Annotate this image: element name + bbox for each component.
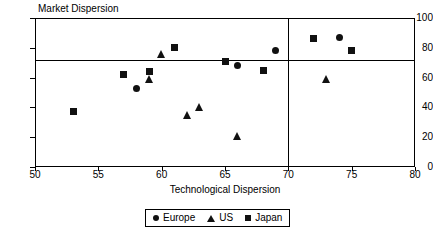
- x-tick-mark: [35, 167, 36, 171]
- data-point-europe: [336, 34, 343, 41]
- circle-marker-icon: [153, 215, 159, 221]
- legend-item-japan: Japan: [245, 212, 282, 224]
- legend-item-us: US: [207, 212, 233, 224]
- x-tick-mark: [352, 167, 353, 171]
- data-point-japan: [120, 71, 127, 78]
- data-point-japan: [310, 35, 317, 42]
- x-tick-mark: [98, 167, 99, 171]
- x-tick-label: 50: [20, 170, 50, 180]
- vertical-reference-line: [288, 18, 289, 167]
- data-point-us: [157, 50, 165, 58]
- data-point-japan: [171, 44, 178, 51]
- data-point-us: [322, 75, 330, 83]
- data-point-japan: [348, 47, 355, 54]
- chart-legend: EuropeUSJapan: [145, 209, 290, 227]
- data-point-japan: [260, 67, 267, 74]
- x-tick-label: 70: [273, 170, 303, 180]
- y-tick-mark: [30, 137, 35, 138]
- y-tick-mark: [30, 78, 35, 79]
- y-tick-mark: [30, 48, 35, 49]
- square-marker-icon: [245, 215, 251, 221]
- y-tick-label: 100: [407, 13, 433, 23]
- data-point-us: [195, 103, 203, 111]
- legend-item-label: US: [219, 212, 233, 224]
- data-point-us: [233, 132, 241, 140]
- y-tick-mark: [30, 18, 35, 19]
- y-tick-label: 60: [407, 73, 433, 83]
- y-tick-mark: [30, 107, 35, 108]
- legend-item-label: Japan: [255, 212, 282, 224]
- data-point-us: [183, 111, 191, 119]
- data-point-europe: [133, 85, 140, 92]
- data-point-japan: [70, 108, 77, 115]
- legend-item-europe: Europe: [153, 212, 195, 224]
- x-tick-label: 55: [83, 170, 113, 180]
- legend-item-label: Europe: [163, 212, 195, 224]
- x-tick-label: 75: [337, 170, 367, 180]
- chart-title: Market Dispersion: [38, 3, 119, 15]
- x-tick-mark: [225, 167, 226, 171]
- y-tick-label: 20: [407, 132, 433, 142]
- y-tick-label: 80: [407, 43, 433, 53]
- x-tick-mark: [162, 167, 163, 171]
- data-point-japan: [146, 68, 153, 75]
- x-tick-mark: [415, 167, 416, 171]
- y-tick-label: 40: [407, 102, 433, 112]
- scatter-chart-figure: Market Dispersion 020406080100 505560657…: [0, 0, 433, 238]
- x-tick-mark: [288, 167, 289, 171]
- x-tick-label: 60: [147, 170, 177, 180]
- data-point-japan: [222, 58, 229, 65]
- plot-area-frame: [35, 18, 415, 167]
- x-tick-label: 65: [210, 170, 240, 180]
- x-axis-title: Technological Dispersion: [35, 184, 415, 196]
- data-point-us: [145, 75, 153, 83]
- triangle-marker-icon: [207, 215, 215, 222]
- x-tick-label: 80: [400, 170, 430, 180]
